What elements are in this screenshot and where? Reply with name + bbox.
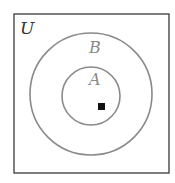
venn-diagram: U B A [0, 0, 175, 183]
universe-label: U [20, 18, 35, 38]
set-a-label: A [87, 70, 101, 89]
set-b-label: B [88, 38, 101, 57]
element-marker [98, 103, 105, 110]
